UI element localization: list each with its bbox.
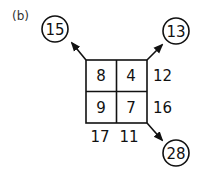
col-sum-2: 11 xyxy=(119,128,138,146)
diagonal-value: 28 xyxy=(166,145,185,163)
diagonal-sum-bottom-right: 28 xyxy=(163,140,189,166)
cell-r1-c2: 4 xyxy=(126,67,136,85)
cell-r2-c2: 7 xyxy=(126,99,136,117)
cell-r1-c1: 8 xyxy=(96,67,106,85)
panel-label: (b) xyxy=(12,9,29,23)
row-sum-1: 12 xyxy=(153,67,172,85)
diagonal-sum-top-left: 15 xyxy=(42,16,68,42)
arrow-bottom-right-icon xyxy=(147,123,162,140)
row-sum-2: 16 xyxy=(153,99,172,117)
arrow-top-right-icon xyxy=(147,45,162,60)
magic-square-diagram: (b) 8 4 9 7 12 16 17 11 15 13 28 xyxy=(0,0,207,174)
col-sum-1: 17 xyxy=(90,128,109,146)
cell-r2-c1: 9 xyxy=(96,99,106,117)
diagonal-value: 15 xyxy=(45,21,64,39)
diagonal-sum-top-right: 13 xyxy=(163,18,189,44)
arrow-top-left-icon xyxy=(72,43,86,60)
diagonal-value: 13 xyxy=(166,23,185,41)
grid xyxy=(86,60,147,123)
